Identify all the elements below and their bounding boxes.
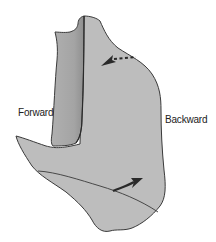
backward-label: Backward [165, 114, 207, 125]
forward-label: Forward [18, 107, 53, 118]
main-surface [16, 16, 165, 231]
side-flange [51, 16, 84, 146]
